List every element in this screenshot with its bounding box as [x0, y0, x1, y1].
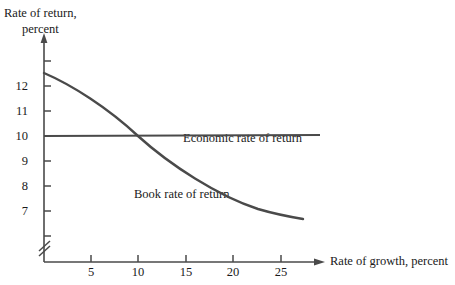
series-line-book-rate-of-return — [44, 73, 303, 219]
x-axis — [44, 258, 325, 265]
chart-figure: Rate of return, percent Rate of growth, … — [0, 0, 455, 285]
y-axis — [41, 33, 48, 262]
y-axis-ticks — [44, 61, 51, 236]
plot-area — [0, 0, 455, 285]
x-axis-ticks — [91, 255, 281, 262]
series-line-economic-rate-of-return — [44, 135, 320, 136]
